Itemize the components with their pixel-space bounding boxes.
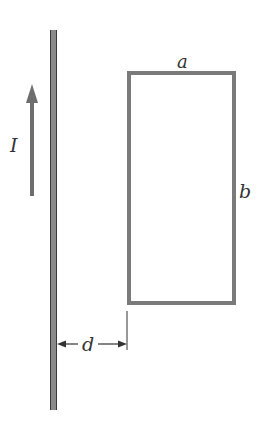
distance-label: d: [82, 333, 94, 355]
arrowhead-right-icon: [118, 341, 127, 348]
loop-height-label: b: [239, 180, 251, 202]
straight-wire: [50, 30, 57, 410]
arrowhead-left-icon: [57, 341, 66, 348]
wire-loop-diagram: I a b d: [0, 0, 265, 438]
current-label: I: [9, 134, 18, 156]
loop-width-label: a: [177, 51, 188, 72]
rectangular-loop: [129, 73, 234, 303]
current-arrow-icon: [26, 84, 38, 196]
